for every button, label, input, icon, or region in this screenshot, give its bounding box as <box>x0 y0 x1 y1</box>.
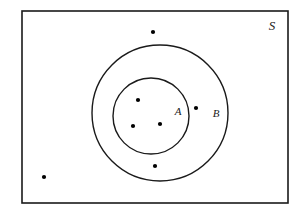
sample-point <box>194 106 198 110</box>
universal-set-label: S <box>269 18 276 33</box>
set-a-label: A <box>174 105 182 117</box>
sample-point <box>42 175 46 179</box>
set-b-label: B <box>213 107 220 119</box>
set-diagram-canvas: S A B <box>0 0 303 219</box>
set-b-circle <box>92 45 228 181</box>
universal-set-rectangle <box>22 11 288 203</box>
sample-point <box>136 98 140 102</box>
sample-point <box>151 30 155 34</box>
sample-point <box>153 164 157 168</box>
sample-point <box>158 122 162 126</box>
sample-point <box>131 124 135 128</box>
set-diagram-figure: S A B <box>0 0 303 219</box>
